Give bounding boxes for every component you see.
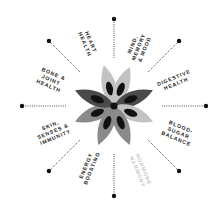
label-bone: BONE &JOINTHEALTH xyxy=(36,66,67,93)
center-flower-icon xyxy=(72,64,155,148)
spoke-end-dot-icon xyxy=(47,169,51,173)
label-digestive: DIGESTIVEHEALTH xyxy=(156,68,194,93)
flower-center-dot xyxy=(110,102,117,109)
spoke-end-dot-icon xyxy=(112,194,116,198)
benefits-wheel-diagram: MIND,MEMORY& MOODDIGESTIVEHEALTHBLOOD-SU… xyxy=(0,0,224,212)
spoke-end-dot-icon xyxy=(177,169,181,173)
dotted-spoke xyxy=(49,140,80,171)
label-skin: SKIN,SENSES &IMMUNITY xyxy=(34,116,72,146)
spoke-end-dot-icon xyxy=(204,104,208,108)
label-heart: HEARTHEALTH xyxy=(77,29,98,58)
spoke-end-dot-icon xyxy=(112,17,116,21)
label-mind: MIND,MEMORY& MOOD xyxy=(124,30,152,64)
spoke-end-dot-icon xyxy=(20,104,24,108)
spoke-end-dot-icon xyxy=(177,39,181,43)
spoke-end-dot-icon xyxy=(47,39,51,43)
dotted-spoke xyxy=(148,140,179,171)
dotted-spoke xyxy=(148,41,179,72)
dotted-spoke xyxy=(49,41,80,72)
label-blood-sugar: BLOOD-SUGARBALANCE xyxy=(161,118,197,147)
label-hormone: HORMONEHARMONY xyxy=(129,153,153,189)
label-energy: ENERGYBOOSTING xyxy=(76,148,101,185)
